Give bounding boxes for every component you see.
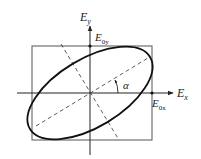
- e0y-label: E0y: [94, 31, 109, 46]
- angle-arc: [115, 80, 118, 93]
- y-axis-label: Ey: [79, 10, 91, 26]
- e0y-point: [88, 44, 91, 47]
- polarization-ellipse-diagram: Ey E0y Ex E0x α: [0, 0, 201, 159]
- e0x-point: [150, 91, 153, 94]
- major-axis-dashed: [36, 58, 148, 126]
- alpha-label: α: [123, 79, 129, 91]
- e0x-label: E0x: [151, 97, 166, 112]
- x-axis-label: Ex: [176, 86, 188, 102]
